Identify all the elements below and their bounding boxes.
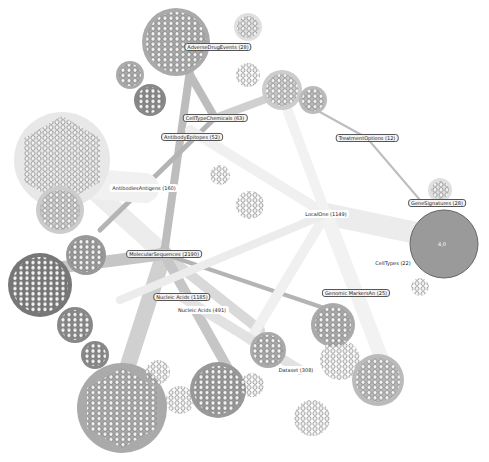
hub-label-4[interactable]: AntibodiesAntigens (160) xyxy=(109,184,178,192)
hub-label-3[interactable]: TreatmentOptions (12) xyxy=(336,134,399,142)
hub-label-7[interactable]: MolecularSequences (2190) xyxy=(126,250,202,258)
network-graph xyxy=(0,0,489,462)
hub-label-8[interactable]: CellTypes (22) xyxy=(372,259,413,267)
big-disc-label: 4,0 xyxy=(438,241,446,247)
hub-label-9[interactable]: Genomic MarkersAn (25) xyxy=(322,289,390,297)
hub-label-5[interactable]: GeneSignatures (28) xyxy=(408,199,466,207)
hub-label-12[interactable]: Dataset (308) xyxy=(276,366,317,374)
hub-label-6[interactable]: LocalOne (1149) xyxy=(302,210,349,218)
hub-label-0[interactable]: AdverseDrugEvents (28) xyxy=(184,43,251,51)
hub-label-11[interactable]: Nucleic Acids (491) xyxy=(175,306,229,314)
hub-label-10[interactable]: Nucleic Acids (1185) xyxy=(153,293,210,301)
hub-label-2[interactable]: AntibodyEpitopes (52) xyxy=(161,133,223,141)
hub-label-1[interactable]: CellTypeChemicals (63) xyxy=(183,114,248,122)
